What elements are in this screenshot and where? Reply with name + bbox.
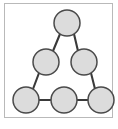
graph-edge: [74, 34, 78, 51]
graph-node: [51, 87, 77, 113]
graph-node: [88, 87, 114, 113]
graph-node: [13, 87, 39, 113]
figure-container: [0, 0, 118, 129]
graph-node: [33, 49, 59, 75]
graph-nodes-group: [13, 10, 114, 113]
graph-edge: [33, 73, 39, 89]
graph-edge: [53, 34, 60, 51]
graph-diagram: [0, 0, 118, 129]
graph-edge: [91, 73, 95, 89]
graph-node: [71, 49, 97, 75]
graph-node: [54, 10, 80, 36]
